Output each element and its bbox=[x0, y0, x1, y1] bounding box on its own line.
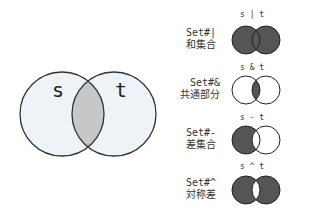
label-difference-name: Set#- bbox=[186, 127, 216, 139]
label-difference-jp: 差集合 bbox=[186, 139, 216, 151]
set-t-label: t bbox=[115, 78, 127, 102]
union-diagram bbox=[232, 26, 280, 54]
venn-diagrams bbox=[0, 0, 310, 212]
label-symmetric-difference: Set#^ 対称差 bbox=[186, 177, 216, 201]
difference-diagram bbox=[232, 126, 280, 154]
label-union-name: Set#| bbox=[186, 27, 216, 39]
op-difference: s - t bbox=[240, 113, 264, 122]
symmetric-difference-diagram bbox=[232, 176, 280, 204]
label-union: Set#| 和集合 bbox=[186, 27, 216, 51]
label-intersection: Set#& 共通部分 bbox=[180, 77, 220, 101]
main-venn bbox=[20, 72, 156, 156]
label-difference: Set#- 差集合 bbox=[186, 127, 216, 151]
label-intersection-jp: 共通部分 bbox=[180, 89, 220, 101]
op-symmetric-difference: s ^ t bbox=[240, 162, 264, 171]
intersection-diagram bbox=[232, 76, 280, 104]
op-intersection: s & t bbox=[240, 63, 264, 72]
label-union-jp: 和集合 bbox=[186, 39, 216, 51]
label-intersection-name: Set#& bbox=[180, 77, 220, 89]
label-symmetric-difference-jp: 対称差 bbox=[186, 189, 216, 201]
op-union: s | t bbox=[240, 10, 264, 19]
set-s-label: s bbox=[52, 78, 64, 102]
label-symmetric-difference-name: Set#^ bbox=[186, 177, 216, 189]
